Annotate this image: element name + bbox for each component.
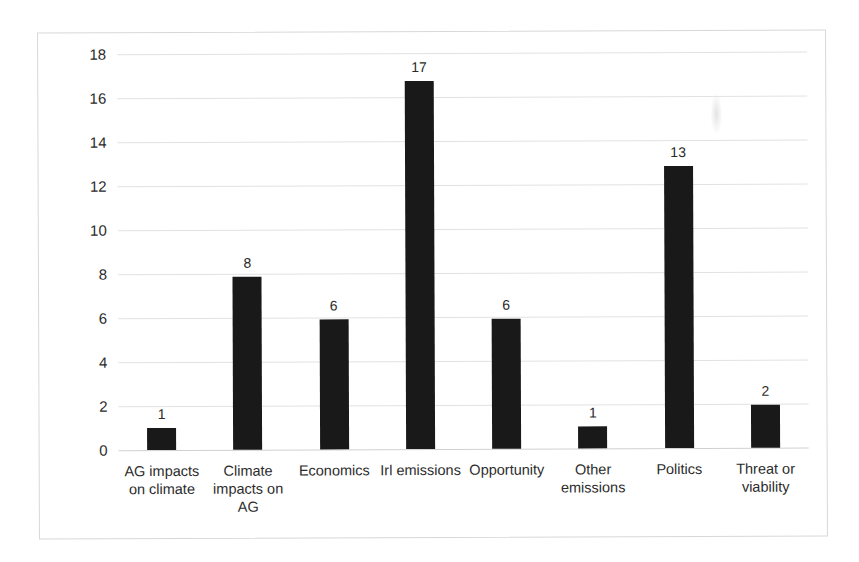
x-axis-category-label: Politics <box>633 460 725 478</box>
y-axis-tick-label: 2 <box>99 399 107 414</box>
bar-group: 13Politics <box>635 52 723 448</box>
x-axis-category-label: Other emissions <box>547 460 639 497</box>
y-axis-tick-label: 12 <box>90 179 107 194</box>
y-axis-tick-label: 14 <box>90 135 107 150</box>
bar-group: 1AG impacts on climate <box>117 54 205 450</box>
y-axis-tick-label: 10 <box>90 223 107 238</box>
bar[interactable] <box>147 428 176 450</box>
bar[interactable] <box>492 319 521 449</box>
x-axis-category-label: Climate impacts on AG <box>202 462 294 517</box>
bar-group: 6Economics <box>290 53 378 449</box>
x-axis-category-label: Irl emissions <box>375 461 467 479</box>
bar[interactable] <box>578 427 607 449</box>
bar-group: 2Threat or viability <box>721 52 809 448</box>
bar-group: 6Opportunity <box>462 53 550 449</box>
bar[interactable] <box>405 81 435 449</box>
bar-value-label: 17 <box>411 60 427 74</box>
bar-value-label: 13 <box>670 145 686 159</box>
y-axis-tick-label: 4 <box>99 355 107 370</box>
bar-value-label: 6 <box>330 298 338 312</box>
bar[interactable] <box>233 276 263 449</box>
bar-value-label: 2 <box>761 383 769 397</box>
x-axis-category-label: Opportunity <box>461 461 553 479</box>
bar-value-label: 1 <box>589 406 597 420</box>
plot-area: 0246810121416181AG impacts on climate8Cl… <box>117 52 809 451</box>
bar-group: 8Climate impacts on AG <box>203 54 291 450</box>
bar-chart: 0246810121416181AG impacts on climate8Cl… <box>37 29 828 539</box>
bar-group: 17Irl emissions <box>376 53 464 449</box>
y-axis-tick-label: 18 <box>89 47 106 62</box>
bar-value-label: 1 <box>158 407 166 421</box>
bar[interactable] <box>751 404 780 447</box>
y-axis-tick-label: 6 <box>99 311 107 326</box>
x-axis-category-label: Economics <box>288 461 380 479</box>
x-axis-category-label: AG impacts on climate <box>116 462 208 499</box>
bar[interactable] <box>319 319 348 449</box>
bar-value-label: 6 <box>502 298 510 312</box>
bar-group: 1Other emissions <box>548 52 636 448</box>
bar-value-label: 8 <box>243 255 251 269</box>
figure-canvas: 0246810121416181AG impacts on climate8Cl… <box>0 0 859 562</box>
y-axis-tick-label: 8 <box>99 267 107 282</box>
y-axis-tick-label: 16 <box>90 91 107 106</box>
x-axis-category-label: Threat or viability <box>720 460 812 497</box>
y-axis-tick-label: 0 <box>99 443 107 458</box>
bar[interactable] <box>664 166 694 448</box>
